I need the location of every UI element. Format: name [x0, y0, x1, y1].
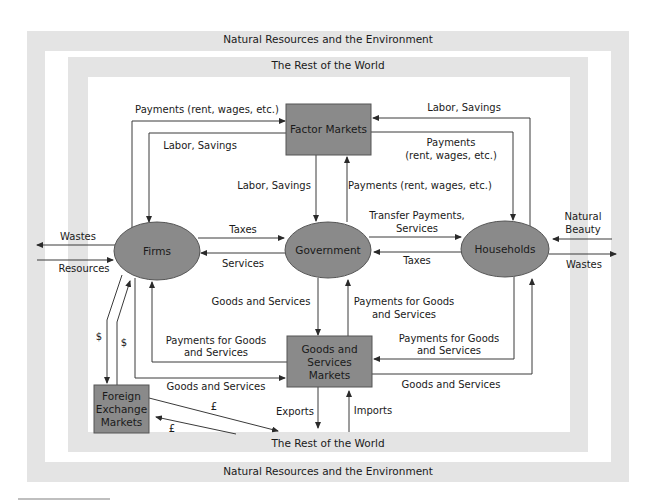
label-goods-to-gov-payments-2: and Services [372, 309, 436, 320]
label-firms-to-goods: Goods and Services [167, 381, 266, 392]
label-dollar-2: $ [121, 337, 127, 348]
firms-label: Firms [143, 245, 171, 257]
label-pound-2: £ [169, 423, 175, 434]
label-firms-to-factor-payments: Payments (rent, wages, etc.) [135, 104, 279, 115]
label-households-to-factor-labor: Labor, Savings [427, 102, 501, 113]
label-goods-to-households: Goods and Services [402, 379, 501, 390]
factor-markets-label: Factor Markets [290, 123, 367, 135]
fx-label-line1: Foreign [102, 390, 141, 402]
government-label: Government [295, 244, 360, 256]
label-gov-to-households-1: Transfer Payments, [368, 210, 465, 221]
label-factor-to-households-payments-1: Payments [427, 137, 476, 148]
label-gov-to-firms-services: Services [222, 258, 264, 269]
label-goods-to-firms-payments-1: Payments for Goods [166, 335, 267, 346]
label-exports: Exports [276, 406, 314, 417]
label-gov-to-factor-payments: Payments (rent, wages, etc.) [348, 180, 492, 191]
outer-frame-bottom-label: Natural Resources and the Environment [223, 465, 433, 477]
label-natural-beauty-1: Natural [565, 211, 602, 222]
label-factor-to-households-payments-2: (rent, wages, etc.) [405, 150, 497, 161]
label-households-to-goods-payments-2: and Services [417, 345, 481, 356]
households-label: Households [474, 243, 535, 255]
label-factor-to-gov-labor: Labor, Savings [237, 180, 311, 191]
label-imports: Imports [354, 405, 392, 416]
goods-markets-label-line3: Markets [309, 369, 351, 381]
label-gov-to-goods: Goods and Services [212, 296, 311, 307]
goods-markets-label-line2: Services [307, 356, 351, 368]
label-households-to-goods-payments-1: Payments for Goods [399, 333, 500, 344]
label-goods-to-firms-payments-2: and Services [184, 347, 248, 358]
outer-frame-top-label: Natural Resources and the Environment [223, 33, 433, 45]
label-factor-to-firms-labor: Labor, Savings [163, 140, 237, 151]
fx-label-line3: Markets [101, 416, 143, 428]
label-firms-wastes: Wastes [60, 231, 96, 242]
label-pound-1: £ [211, 401, 217, 412]
inner-frame-top-label: The Rest of the World [270, 59, 384, 71]
label-firms-to-gov-taxes: Taxes [228, 224, 257, 235]
label-households-to-gov-taxes: Taxes [402, 255, 431, 266]
label-dollar-1: $ [96, 331, 102, 342]
circular-flow-diagram: Natural Resources and the Environment Na… [0, 0, 656, 503]
goods-markets-label-line1: Goods and [301, 343, 357, 355]
inner-frame-bottom-label: The Rest of the World [270, 437, 384, 449]
label-goods-to-gov-payments-1: Payments for Goods [354, 296, 455, 307]
label-resources: Resources [58, 263, 109, 274]
fx-label-line2: Exchange [96, 403, 147, 415]
label-gov-to-households-2: Services [396, 223, 438, 234]
label-natural-beauty-2: Beauty [565, 224, 600, 235]
label-households-wastes: Wastes [566, 259, 602, 270]
